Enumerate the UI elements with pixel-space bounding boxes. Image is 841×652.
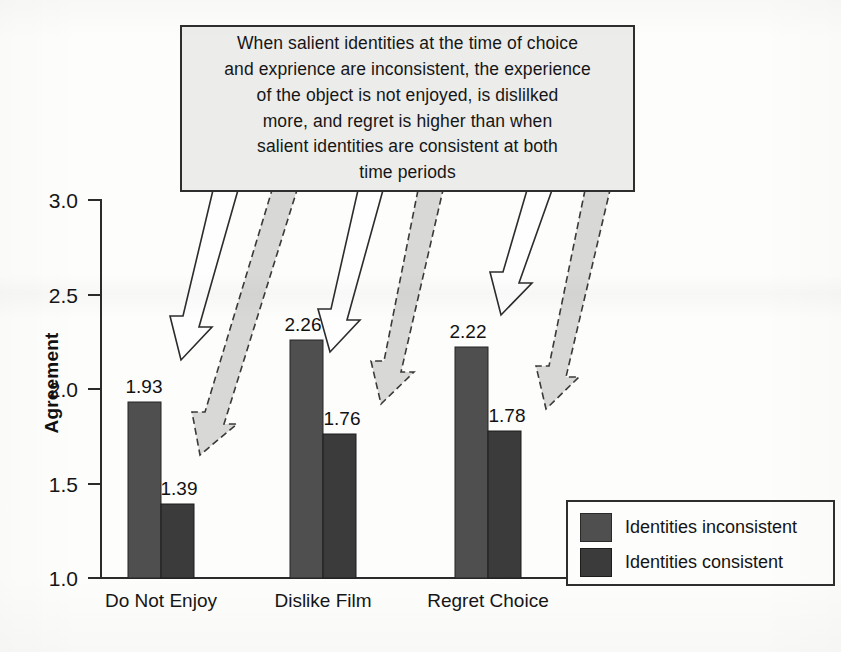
- chart-figure: When salient identities at the time of c…: [0, 0, 841, 652]
- callout-arrow-dashed-2: [371, 190, 443, 404]
- legend-item-consistent: Identities consistent: [580, 545, 833, 580]
- legend: Identities inconsistent Identities consi…: [566, 500, 835, 586]
- legend-label-consistent: Identities consistent: [625, 552, 783, 573]
- callout-annotation-text: When salient identities at the time of c…: [208, 31, 607, 185]
- legend-item-inconsistent: Identities inconsistent: [580, 510, 833, 545]
- legend-label-inconsistent: Identities inconsistent: [625, 517, 797, 538]
- callout-arrow-dashed-3: [536, 190, 610, 409]
- legend-swatch-icon-inconsistent: [580, 513, 612, 542]
- legend-swatch-icon-consistent: [580, 548, 612, 577]
- callout-arrow-solid-2: [318, 190, 383, 352]
- callout-annotation-box: When salient identities at the time of c…: [180, 25, 635, 192]
- callout-arrow-solid-3: [490, 190, 552, 315]
